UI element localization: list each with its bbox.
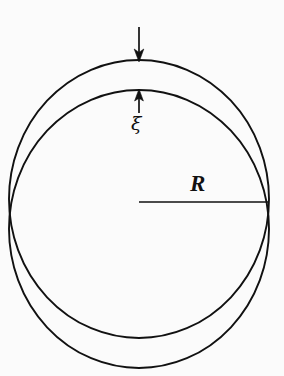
arrow-down-icon: [134, 27, 144, 62]
radius-label: R: [190, 172, 206, 195]
figure-container: R ξ: [0, 0, 284, 376]
circle-diagram-canvas: [0, 0, 284, 376]
arrow-up-icon: [135, 89, 144, 113]
displacement-label: ξ: [131, 114, 141, 133]
